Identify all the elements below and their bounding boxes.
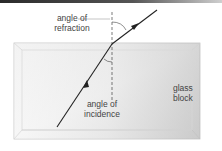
glass-block-label: glass block (173, 83, 203, 103)
label-line: incidence (80, 109, 124, 119)
refraction-diagram (0, 0, 222, 151)
label-line: glass (173, 83, 203, 93)
refraction-angle-arc (112, 22, 126, 30)
label-line: angle of (50, 13, 94, 23)
label-line: block (173, 93, 203, 103)
label-line: refraction (50, 23, 94, 33)
angle-of-refraction-label: angle of refraction (50, 13, 94, 33)
label-line: angle of (80, 99, 124, 109)
angle-of-incidence-label: angle of incidence (80, 99, 124, 119)
